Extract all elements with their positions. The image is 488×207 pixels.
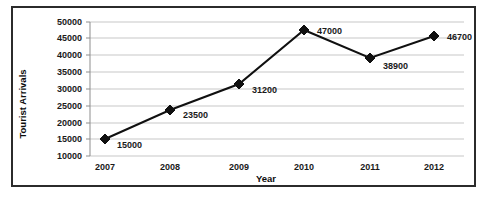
y-axis-ticks (86, 22, 90, 156)
y-tick-label: 35000 (57, 67, 82, 77)
y-tick-label: 15000 (57, 134, 82, 144)
y-tick-label: 25000 (57, 101, 82, 111)
data-point-2012[interactable] (429, 31, 439, 41)
y-tick-label: 45000 (57, 33, 82, 43)
y-tick-labels: 50000 45000 40000 35000 30000 25000 2000… (57, 17, 82, 161)
line-chart: Tourist Arrivals 500 (13, 8, 474, 185)
data-label-2009: 31200 (252, 85, 277, 95)
data-label-2011: 38900 (383, 61, 408, 71)
data-point-2011[interactable] (365, 53, 375, 63)
y-tick-label: 50000 (57, 17, 82, 27)
y-axis-title: Tourist Arrivals (17, 69, 28, 138)
data-point-labels: 15000 23500 31200 47000 38900 46700 (117, 26, 472, 150)
chart-frame: Tourist Arrivals 500 (11, 6, 476, 187)
data-label-2008: 23500 (183, 110, 208, 120)
data-label-2010: 47000 (317, 26, 342, 36)
x-axis-title: Year (256, 173, 276, 184)
x-tick-label: 2012 (424, 162, 444, 172)
y-tick-label: 30000 (57, 84, 82, 94)
data-label-2007: 15000 (117, 140, 142, 150)
y-tick-label: 10000 (57, 151, 82, 161)
x-tick-label: 2009 (229, 162, 249, 172)
data-point-2008[interactable] (165, 105, 175, 115)
x-tick-label: 2011 (360, 162, 380, 172)
data-point-2007[interactable] (100, 134, 110, 144)
x-tick-label: 2010 (294, 162, 314, 172)
x-tick-label: 2007 (95, 162, 115, 172)
x-tick-label: 2008 (160, 162, 180, 172)
data-label-2012: 46700 (447, 32, 472, 42)
x-tick-labels: 2007 2008 2009 2010 2011 2012 (95, 162, 444, 172)
y-tick-label: 40000 (57, 50, 82, 60)
y-tick-label: 20000 (57, 118, 82, 128)
